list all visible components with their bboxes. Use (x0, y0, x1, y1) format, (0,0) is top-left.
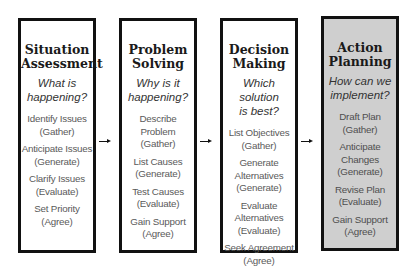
step-item: Revise Plan(Evaluate) (324, 184, 396, 209)
action-planning-box: Action Planning How can we implement? Dr… (321, 16, 399, 251)
question-line: Why is it (123, 76, 193, 90)
step-phase: (Gather) (223, 140, 295, 153)
column-question: Why is it happening? (122, 76, 194, 104)
step-action: Evaluate Alternatives (223, 200, 295, 225)
step-action: Describe Problem (122, 113, 194, 138)
problem-solving-box: Problem Solving Why is it happening? Des… (119, 18, 197, 253)
step-phase: (Generate) (223, 182, 295, 195)
step-action: Clarify Issues (21, 173, 93, 186)
step-item: Describe Problem(Gather) (122, 113, 194, 151)
situation-assessment-box: Situation Assessment What is happening? … (18, 18, 96, 253)
step-action: Draft Plan (324, 111, 396, 124)
arrow-right-icon (99, 141, 108, 142)
step-list: Describe Problem(Gather) List Causes(Gen… (122, 113, 194, 241)
step-phase: (Gather) (324, 124, 396, 137)
decision-making-box: Decision Making Which solution is best? … (220, 18, 298, 253)
title-line: Problem (122, 43, 194, 57)
step-phase: (Generate) (324, 166, 396, 179)
step-action: Set Priority (21, 203, 93, 216)
question-line: happening? (22, 90, 92, 104)
question-line: How can we (325, 74, 395, 88)
title-line: Making (223, 57, 295, 71)
step-phase: (Evaluate) (122, 198, 194, 211)
step-action: Identify Issues (21, 113, 93, 126)
step-action: List Objectives (223, 127, 295, 140)
step-action: Anticipate Issues (21, 143, 93, 156)
title-line: Planning (324, 55, 396, 69)
step-action: Revise Plan (324, 184, 396, 197)
step-item: Evaluate Alternatives(Evaluate) (223, 200, 295, 238)
question-line: implement? (325, 88, 395, 102)
step-item: Identify Issues(Gather) (21, 113, 93, 138)
step-item: Generate Alternatives(Generate) (223, 157, 295, 195)
column-question: How can we implement? (324, 74, 396, 102)
step-action: Seek Agreement (223, 242, 295, 255)
step-action: List Causes (122, 156, 194, 169)
step-item: Anticipate Issues(Generate) (21, 143, 93, 168)
arrow-right-icon (200, 141, 209, 142)
step-item: Anticipate Changes(Generate) (324, 141, 396, 179)
column-title: Action Planning (324, 41, 396, 69)
step-phase: (Agree) (324, 226, 396, 239)
step-list: Draft Plan(Gather) Anticipate Changes(Ge… (324, 111, 396, 239)
step-phase: (Generate) (122, 168, 194, 181)
step-item: Gain Support(Agree) (122, 216, 194, 241)
step-phase: (Evaluate) (21, 186, 93, 199)
column-title: Decision Making (223, 43, 295, 71)
title-line: Decision (223, 43, 295, 57)
step-item: Clarify Issues(Evaluate) (21, 173, 93, 198)
column-title: Problem Solving (122, 43, 194, 71)
question-line: is best? (224, 104, 294, 118)
step-item: Test Causes(Evaluate) (122, 186, 194, 211)
step-phase: (Gather) (122, 138, 194, 151)
step-item: Draft Plan(Gather) (324, 111, 396, 136)
step-action: Generate Alternatives (223, 157, 295, 182)
step-phase: (Agree) (21, 216, 93, 229)
step-item: Gain Support(Agree) (324, 214, 396, 239)
column-question: What is happening? (21, 76, 93, 104)
title-line: Situation (21, 43, 93, 57)
question-line: What is (22, 76, 92, 90)
step-phase: (Evaluate) (223, 225, 295, 238)
step-phase: (Evaluate) (324, 196, 396, 209)
step-action: Test Causes (122, 186, 194, 199)
step-list: Identify Issues(Gather) Anticipate Issue… (21, 113, 93, 228)
step-item: List Causes(Generate) (122, 156, 194, 181)
step-action: Gain Support (122, 216, 194, 229)
question-line: Which solution (224, 76, 294, 104)
arrow-right-icon (301, 141, 310, 142)
column-question: Which solution is best? (223, 76, 295, 118)
title-line: Assessment (21, 57, 93, 71)
step-phase: (Agree) (122, 228, 194, 241)
step-phase: (Agree) (223, 255, 295, 268)
step-list: List Objectives(Gather) Generate Alterna… (223, 127, 295, 267)
title-line: Action (324, 41, 396, 55)
question-line: happening? (123, 90, 193, 104)
step-phase: (Gather) (21, 126, 93, 139)
step-action: Anticipate Changes (324, 141, 396, 166)
column-title: Situation Assessment (21, 43, 93, 71)
step-phase: (Generate) (21, 156, 93, 169)
step-item: Set Priority(Agree) (21, 203, 93, 228)
step-item: List Objectives(Gather) (223, 127, 295, 152)
step-item: Seek Agreement(Agree) (223, 242, 295, 267)
step-action: Gain Support (324, 214, 396, 227)
title-line: Solving (122, 57, 194, 71)
